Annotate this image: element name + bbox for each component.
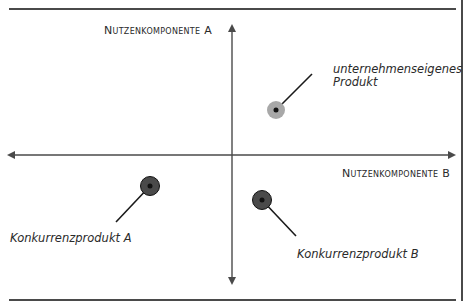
competitor-b-marker: [253, 191, 297, 237]
own-product-marker: [267, 74, 312, 119]
own-product-label-line2: Produkt: [333, 76, 462, 89]
axis-label-nutzenkomponente-a: Nutzenkomponente A: [104, 24, 212, 37]
own-product-label: unternehmenseigenes Produkt: [333, 63, 462, 89]
competitor-b-label: Konkurrenzprodukt B: [297, 248, 419, 261]
competitor-a-label: Konkurrenzprodukt A: [10, 232, 132, 245]
competitor-a-marker: [116, 177, 160, 223]
axis-label-nutzenkomponente-b: Nutzenkomponente B: [342, 167, 450, 180]
